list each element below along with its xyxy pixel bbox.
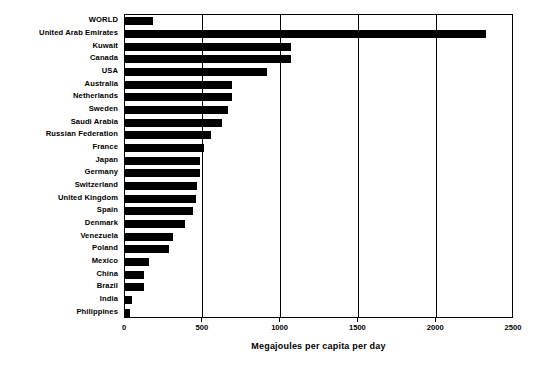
category-label: India [0, 295, 118, 303]
category-label: China [0, 270, 118, 278]
bar [125, 106, 228, 114]
bar [125, 271, 144, 279]
category-label: Spain [0, 206, 118, 214]
bar [125, 43, 291, 51]
tick-label-2000: 2000 [427, 323, 444, 332]
bar [125, 258, 149, 266]
bar [125, 119, 222, 127]
category-label: Venezuela [0, 232, 118, 240]
category-label: Poland [0, 244, 118, 252]
bar [125, 207, 193, 215]
bar [125, 195, 196, 203]
tick-label-1000: 1000 [271, 323, 288, 332]
category-label: United Arab Emirates [0, 29, 118, 37]
x-axis-title: Megajoules per capita per day [124, 341, 513, 351]
bar [125, 68, 267, 76]
bar [125, 233, 173, 241]
tick-label-1500: 1500 [349, 323, 366, 332]
category-label: United Kingdom [0, 194, 118, 202]
tick-mark-500 [201, 318, 202, 322]
category-label: Switzerland [0, 181, 118, 189]
bar [125, 30, 486, 38]
category-label: France [0, 143, 118, 151]
bar-chart: WORLDUnited Arab EmiratesKuwaitCanadaUSA… [0, 0, 551, 372]
category-label: Brazil [0, 282, 118, 290]
bar [125, 182, 197, 190]
bar [125, 17, 153, 25]
category-label: Denmark [0, 219, 118, 227]
bar [125, 144, 204, 152]
bar [125, 220, 185, 228]
bar [125, 245, 169, 253]
category-axis-labels: WORLDUnited Arab EmiratesKuwaitCanadaUSA… [0, 14, 121, 318]
category-label: USA [0, 67, 118, 75]
tick-label-2500: 2500 [505, 323, 522, 332]
bar [125, 93, 232, 101]
category-label: Canada [0, 54, 118, 62]
category-label: WORLD [0, 16, 118, 24]
category-label: Kuwait [0, 42, 118, 50]
category-label: Russian Federation [0, 130, 118, 138]
bar [125, 157, 200, 165]
x-axis-ticks: 05001000150020002500 [124, 318, 513, 334]
bar [125, 283, 144, 291]
plot-area [124, 14, 513, 318]
bar [125, 296, 132, 304]
bar [125, 81, 232, 89]
category-label: Philippines [0, 308, 118, 316]
category-label: Japan [0, 156, 118, 164]
bar [125, 55, 291, 63]
category-label: Mexico [0, 257, 118, 265]
bar [125, 169, 200, 177]
gridline-1500 [358, 15, 359, 317]
category-label: Netherlands [0, 92, 118, 100]
gridline-2000 [436, 15, 437, 317]
tick-mark-1500 [357, 318, 358, 322]
category-label: Sweden [0, 105, 118, 113]
tick-mark-1000 [279, 318, 280, 322]
category-label: Australia [0, 80, 118, 88]
tick-label-0: 0 [122, 323, 126, 332]
tick-label-500: 500 [195, 323, 208, 332]
category-label: Germany [0, 168, 118, 176]
bar [125, 131, 211, 139]
category-label: Saudi Arabia [0, 118, 118, 126]
bar [125, 309, 130, 317]
tick-mark-2000 [435, 318, 436, 322]
